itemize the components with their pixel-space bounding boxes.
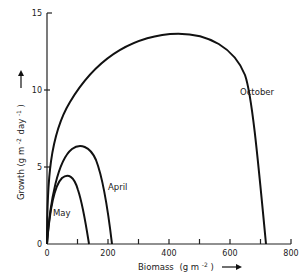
x-tick-800: 800 [283, 249, 298, 258]
x-tick-400: 400 [161, 249, 176, 258]
y-tick-15: 15 [32, 9, 42, 18]
october-curve [47, 34, 266, 244]
x-axis-title: Biomass (g m -2 ) [138, 259, 242, 272]
y-axis-title: Growth (g m -2 day -1 ) [13, 70, 26, 200]
growth-biomass-chart: 0 200 400 600 800 0 5 10 15 October Apri… [0, 0, 305, 279]
label-april: April [108, 182, 127, 192]
svg-text:Growth (g m -2 day: Growth (g m -2 day -1 ) [13, 104, 26, 200]
y-tick-5: 5 [37, 163, 42, 172]
series-labels: October April May [53, 87, 275, 218]
svg-text:Biomass (g m -2: Biomass (g m -2 ) [138, 259, 214, 272]
x-tick-600: 600 [222, 249, 237, 258]
x-tick-0: 0 [44, 249, 49, 258]
y-tick-0: 0 [37, 240, 42, 249]
y-tick-10: 10 [32, 86, 42, 95]
label-may: May [53, 208, 71, 218]
label-october: October [240, 87, 275, 97]
x-tick-200: 200 [100, 249, 115, 258]
series-curves [47, 34, 266, 244]
tick-labels: 0 200 400 600 800 0 5 10 15 [32, 9, 299, 258]
